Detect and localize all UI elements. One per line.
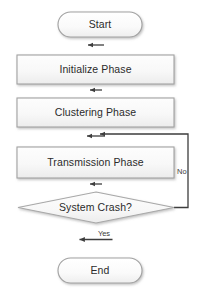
node-shape-start[interactable] <box>58 12 142 37</box>
node-shape-clustering[interactable] <box>17 98 174 127</box>
node-shape-transmission[interactable] <box>17 147 174 178</box>
flowchart-graphics <box>0 0 203 297</box>
node-shape-end[interactable] <box>58 258 142 283</box>
node-shape-decision[interactable] <box>18 192 174 223</box>
node-shape-initialize[interactable] <box>17 55 174 84</box>
flowchart-canvas: Start Initialize Phase Clustering Phase … <box>0 0 203 297</box>
